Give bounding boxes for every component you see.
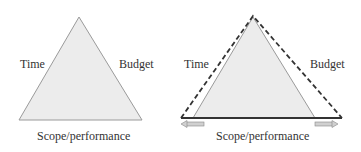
- right-inner-triangle: [193, 17, 315, 118]
- right-budget-label: Budget: [310, 57, 345, 72]
- left-scope-label: Scope/performance: [37, 129, 130, 144]
- left-arrow-icon: [181, 121, 204, 128]
- right-time-label: Time: [184, 57, 209, 72]
- right-scope-label: Scope/performance: [216, 129, 309, 144]
- left-time-label: Time: [20, 57, 45, 72]
- right-arrow-icon: [315, 121, 338, 128]
- left-budget-label: Budget: [119, 57, 154, 72]
